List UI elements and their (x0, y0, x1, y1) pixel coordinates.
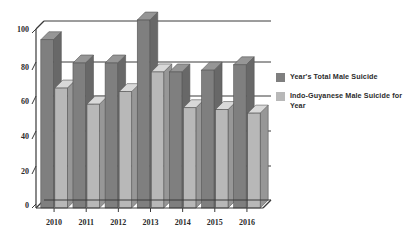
legend-swatch-total-icon (276, 73, 285, 82)
y-tick-label-20: 20 (21, 167, 29, 176)
bar-front-face (248, 113, 261, 208)
x-label-2012: 2012 (110, 218, 126, 227)
y-tick-label-100: 100 (17, 25, 29, 34)
x-tick-labels: 2010201120122013201420152016 (46, 218, 255, 227)
chart-legend: Year's Total Male Suicide Indo-Guyanese … (276, 72, 414, 120)
bar-front-face (73, 63, 86, 208)
bar-front-face (87, 104, 100, 208)
bar-front-face (55, 88, 67, 208)
bar-chart: 100 80 60 40 20 0 2010201120122013201420… (0, 0, 418, 246)
bar-front-face (151, 72, 164, 208)
x-label-2015: 2015 (207, 218, 223, 227)
x-tick-marks (54, 208, 247, 212)
bar-front-face (202, 70, 215, 208)
x-label-2014: 2014 (175, 218, 191, 227)
bar-front-face (234, 65, 247, 208)
bar-front-face (183, 108, 196, 208)
bars-layer (41, 12, 268, 208)
bar-2012-series2 (119, 84, 140, 208)
bar-front-face (41, 40, 54, 208)
bar-front-face (105, 63, 118, 208)
legend-item-indo: Indo-Guyanese Male Suicide for Year (276, 91, 414, 111)
y-tick-label-0: 0 (25, 201, 29, 210)
bar-side-face (260, 105, 268, 208)
legend-label-total: Year's Total Male Suicide (290, 72, 378, 82)
bar-2010-series2 (55, 80, 75, 208)
bar-2011-series2 (87, 96, 108, 208)
bar-front-face (216, 110, 229, 208)
x-label-2011: 2011 (78, 218, 94, 227)
bar-2016-series2 (248, 105, 268, 208)
x-label-2013: 2013 (143, 218, 159, 227)
bar-2013-series2 (151, 64, 172, 208)
legend-label-indo: Indo-Guyanese Male Suicide for Year (290, 91, 414, 111)
legend-item-total: Year's Total Male Suicide (276, 72, 414, 82)
bar-front-face (119, 92, 132, 208)
bar-2015-series2 (216, 102, 237, 208)
bar-front-face (169, 72, 182, 208)
bar-front-face (137, 20, 150, 208)
legend-swatch-indo-icon (276, 92, 285, 101)
chart-canvas: 100 80 60 40 20 0 2010201120122013201420… (0, 0, 418, 246)
x-label-2010: 2010 (46, 218, 62, 227)
y-tick-label-60: 60 (21, 97, 29, 106)
y-axis-depth-top (36, 21, 44, 29)
y-tick-label-80: 80 (21, 63, 29, 72)
x-label-2016: 2016 (239, 218, 255, 227)
bar-2014-series2 (183, 100, 204, 208)
y-tick-label-40: 40 (21, 132, 29, 141)
y-tick-labels: 100 80 60 40 20 0 (17, 25, 29, 210)
